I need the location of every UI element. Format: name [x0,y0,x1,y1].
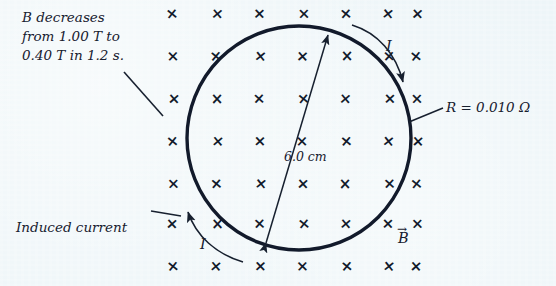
field-change-note: B decreases from 1.00 T to 0.40 T in 1.2… [22,8,124,65]
induced-current-label: Induced current [16,218,127,237]
leader-induced-current [151,211,181,216]
current-arrow-top-right [352,25,403,82]
resistance-label: R = 0.010 Ω [446,98,530,117]
diameter-label: 6.0 cm [284,148,327,166]
conducting-loop [187,26,411,250]
current-arrow-bottom-left [188,212,243,262]
leader-field-note [124,72,163,116]
b-field-vector-label: →B [398,228,409,249]
figure-canvas: ××××××××××××××××××××××××××××××××××××××××… [0,0,556,286]
current-label-bottom: I [200,234,206,255]
diameter-arrow [266,35,328,243]
current-label-top: I [386,36,392,57]
vector-arrow-icon: → [397,221,407,238]
leader-resistance [409,108,443,122]
